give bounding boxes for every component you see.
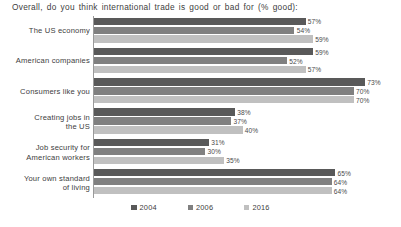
legend-item-2004[interactable]: 2004: [131, 203, 156, 212]
bar-value-label: 59%: [313, 48, 329, 55]
category-label: The US economy: [6, 27, 90, 36]
bar-2004: [94, 48, 313, 55]
bar-value-label: 70%: [354, 87, 370, 94]
bar-2016: [94, 35, 313, 42]
bar-value-label: 30%: [205, 148, 221, 155]
bar-row: 54%: [94, 27, 401, 34]
bar-value-label: 40%: [243, 127, 259, 134]
bar-row: 52%: [94, 57, 401, 64]
bar-2004: [94, 169, 335, 176]
bar-value-label: 57%: [306, 18, 322, 25]
bar-2004: [94, 18, 306, 25]
bar-value-label: 54%: [294, 27, 310, 34]
bar-set: 38%37%40%: [94, 108, 401, 135]
bar-2016: [94, 66, 306, 73]
bar-row: 30%: [94, 148, 401, 155]
bar-value-label: 52%: [287, 57, 303, 64]
legend-label: 2016: [252, 203, 269, 212]
bar-2006: [94, 148, 205, 155]
legend-label: 2004: [140, 203, 157, 212]
legend-swatch-icon: [188, 205, 193, 210]
bar-row: 40%: [94, 126, 401, 133]
legend-label: 2006: [196, 203, 213, 212]
plot-area: The US economy57%54%59%American companie…: [0, 16, 401, 200]
bar-value-label: 38%: [235, 109, 251, 116]
bar-value-label: 73%: [365, 78, 381, 85]
category-label: American companies: [6, 57, 90, 66]
category-label: Your own standardof living: [6, 173, 90, 191]
bar-row: 57%: [94, 18, 401, 25]
bar-row: 37%: [94, 117, 401, 124]
bar-value-label: 70%: [354, 96, 370, 103]
bar-group: Creating jobs inthe US38%37%40%: [0, 107, 401, 137]
bar-groups: The US economy57%54%59%American companie…: [0, 16, 401, 198]
bar-set: 57%54%59%: [94, 18, 401, 45]
legend-swatch-icon: [244, 205, 249, 210]
bar-set: 31%30%35%: [94, 139, 401, 166]
bar-2006: [94, 117, 231, 124]
bar-2016: [94, 187, 332, 194]
bar-row: 59%: [94, 35, 401, 42]
bar-row: 65%: [94, 169, 401, 176]
category-label: Consumers like you: [6, 87, 90, 96]
bar-2006: [94, 178, 332, 185]
bar-group: American companies59%52%57%: [0, 46, 401, 76]
bar-value-label: 37%: [231, 118, 247, 125]
bar-2016: [94, 126, 243, 133]
legend-item-2006[interactable]: 2006: [188, 203, 213, 212]
bar-group: The US economy57%54%59%: [0, 16, 401, 46]
bar-group: Job security forAmerican workers31%30%35…: [0, 137, 401, 167]
bar-value-label: 31%: [209, 139, 225, 146]
bar-row: 35%: [94, 157, 401, 164]
bar-row: 38%: [94, 108, 401, 115]
bar-group: Your own standardof living65%64%64%: [0, 167, 401, 197]
bar-row: 64%: [94, 178, 401, 185]
chart-title: Overall, do you think international trad…: [12, 2, 298, 12]
bar-value-label: 64%: [332, 178, 348, 185]
bar-2006: [94, 57, 287, 64]
category-label: Creating jobs inthe US: [6, 113, 90, 131]
bar-2016: [94, 96, 354, 103]
bar-2016: [94, 157, 224, 164]
bar-row: 31%: [94, 139, 401, 146]
bar-2004: [94, 108, 235, 115]
bar-2006: [94, 87, 354, 94]
bar-set: 65%64%64%: [94, 169, 401, 196]
bar-value-label: 64%: [332, 187, 348, 194]
bar-row: 73%: [94, 78, 401, 85]
bar-group: Consumers like you73%70%70%: [0, 77, 401, 107]
bar-row: 57%: [94, 66, 401, 73]
bar-set: 59%52%57%: [94, 48, 401, 75]
bar-row: 70%: [94, 96, 401, 103]
bar-row: 64%: [94, 187, 401, 194]
legend-swatch-icon: [131, 205, 136, 210]
bar-value-label: 35%: [224, 157, 240, 164]
category-label: Job security forAmerican workers: [6, 143, 90, 161]
bar-row: 59%: [94, 48, 401, 55]
bar-2004: [94, 78, 365, 85]
bar-2006: [94, 27, 294, 34]
legend-item-2016[interactable]: 2016: [244, 203, 269, 212]
chart-legend: 200420062016: [0, 203, 401, 212]
bar-value-label: 57%: [306, 66, 322, 73]
bar-value-label: 65%: [335, 169, 351, 176]
bar-row: 70%: [94, 87, 401, 94]
bar-value-label: 59%: [313, 36, 329, 43]
bar-set: 73%70%70%: [94, 78, 401, 105]
chart-container: Overall, do you think international trad…: [0, 0, 401, 227]
bar-2004: [94, 139, 209, 146]
